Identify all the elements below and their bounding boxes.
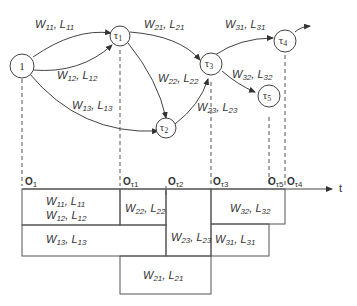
svg-text:Oτ1: Oτ1 [123, 176, 139, 189]
edge-1-tau1-a [33, 32, 111, 57]
edge-label-21: W21, L21 [144, 18, 184, 32]
edge-label-13: W13, L13 [72, 99, 113, 113]
svg-text:W23, L23: W23, L23 [171, 231, 212, 245]
svg-text:W22, L22: W22, L22 [125, 202, 166, 216]
edge-tau1-tau3 [130, 32, 200, 60]
axis-ticks: O1 Oτ1 Oτ2 Oτ3 Oτ5 Oτ4 [25, 176, 303, 189]
edge-label-22: W22, L22 [158, 72, 199, 86]
block-w23 [166, 189, 211, 256]
svg-text:W31, L31: W31, L31 [215, 233, 255, 247]
svg-text:W21, L21: W21, L21 [143, 269, 183, 283]
axis-label-t: t [339, 182, 342, 194]
svg-text:W32, L32: W32, L32 [230, 202, 271, 216]
edge-label-32: W32, L32 [232, 68, 273, 82]
svg-text:Oτ2: Oτ2 [168, 176, 184, 189]
block-w13 [22, 225, 166, 256]
edge-tau3-tau4 [215, 38, 273, 55]
edge-label-23: W23, L23 [197, 101, 238, 115]
svg-text:O1: O1 [25, 176, 38, 189]
edge-label-31: W31, L31 [225, 18, 265, 32]
schedule-diagram: 1 τ1 τ2 τ3 τ4 τ5 W11, L11 W12, L12 W13, … [0, 0, 357, 306]
svg-text:W11, L11: W11, L11 [46, 195, 85, 209]
svg-text:W12, L12: W12, L12 [46, 209, 87, 223]
svg-text:Oτ3: Oτ3 [213, 176, 229, 189]
svg-text:Oτ5: Oτ5 [268, 176, 284, 189]
edge-label-11: W11, L11 [35, 18, 74, 32]
edge-label-12: W12, L12 [57, 69, 98, 83]
edge-tau4-out [295, 26, 310, 32]
edge-1-tau1-b [33, 45, 112, 70]
node-label-1: 1 [19, 60, 25, 72]
svg-text:Oτ4: Oτ4 [287, 176, 303, 189]
svg-text:W13, L13: W13, L13 [46, 233, 87, 247]
